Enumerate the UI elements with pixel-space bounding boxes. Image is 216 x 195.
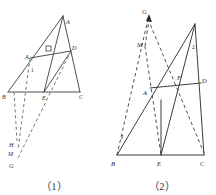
figure-1-solid-lines bbox=[8, 16, 80, 92]
segment-A-to-D bbox=[30, 51, 71, 58]
vertex-label-E: E bbox=[41, 94, 46, 101]
vertex-label-B: B bbox=[111, 160, 115, 167]
dashed-D-to-G bbox=[17, 51, 71, 160]
right-angle-mark-at-F bbox=[46, 46, 51, 51]
figure-1-caption: （1） bbox=[0, 178, 108, 193]
dashed-A-to-M bbox=[18, 58, 30, 150]
figure-2-canvas: G M A F D I B E C 2 bbox=[108, 0, 216, 172]
vertex-label-M: M bbox=[136, 41, 143, 48]
figure-sheet: A A D B E C H M G 1 （1） bbox=[0, 0, 216, 195]
side-apex-to-C bbox=[63, 16, 80, 92]
figure-panel-2: G M A F D I B E C 2 （2） bbox=[108, 0, 216, 195]
figure-2-solid-lines bbox=[117, 24, 204, 155]
vertex-label-A-left: A bbox=[24, 53, 29, 60]
cevian-D-to-E bbox=[44, 51, 71, 92]
figure-1-dashed-lines bbox=[14, 51, 71, 160]
vertex-label-C: C bbox=[200, 160, 205, 167]
dashed-M-to-G bbox=[145, 20, 149, 46]
figure-1-canvas: A A D B E C H M G 1 bbox=[0, 0, 108, 172]
figure-panel-1: A A D B E C H M G 1 （1） bbox=[0, 0, 108, 195]
vertex-label-D: D bbox=[71, 44, 77, 51]
arrowhead-at-G bbox=[146, 14, 152, 22]
angle-label-2: 2 bbox=[192, 44, 195, 50]
cevian-apex-to-E bbox=[161, 24, 195, 155]
vertex-label-C: C bbox=[79, 93, 84, 100]
figure-2-caption: （2） bbox=[108, 178, 216, 193]
vertex-label-B: B bbox=[2, 93, 6, 100]
vertex-label-I: I bbox=[120, 133, 124, 140]
vertex-label-D: D bbox=[201, 77, 207, 84]
dashed-M-to-E bbox=[145, 46, 161, 155]
vertex-label-M: M bbox=[7, 150, 14, 157]
segment-apex-to-E bbox=[44, 16, 63, 92]
dashed-B-to-H bbox=[14, 92, 17, 141]
side-B-to-apex bbox=[117, 24, 195, 155]
vertex-label-G: G bbox=[142, 8, 147, 15]
vertex-label-E: E bbox=[156, 160, 161, 167]
vertex-label-H: H bbox=[8, 141, 14, 148]
vertex-label-G: G bbox=[9, 162, 14, 169]
vertex-label-A: A bbox=[142, 89, 148, 96]
vertex-label-A-apex: A bbox=[65, 18, 70, 25]
angle-label-1: 1 bbox=[31, 67, 34, 73]
